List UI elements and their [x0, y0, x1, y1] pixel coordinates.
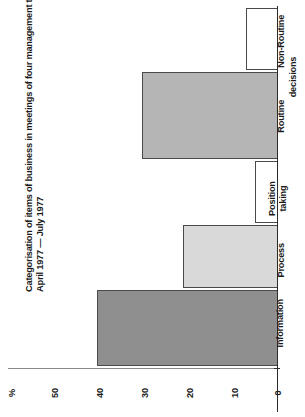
value-axis-tick-10: 10 — [230, 382, 240, 404]
plot-area — [0, 0, 305, 368]
category-group-sublabel-decisions: decisions — [288, 57, 298, 98]
value-axis-tick-20: 20 — [185, 382, 195, 404]
bar-process — [183, 225, 278, 288]
value-axis-unit-label: % — [7, 382, 17, 404]
category-label-routine: Routine — [276, 85, 287, 147]
value-axis-tick-30: 30 — [140, 382, 150, 404]
bar-routine-decisions — [142, 72, 278, 159]
category-label-position-taking: Position taking — [267, 169, 288, 229]
value-axis-tick-50: 50 — [50, 382, 60, 404]
bar-non-routine-decisions — [246, 8, 278, 70]
category-axis-tick-origin — [274, 368, 280, 369]
value-axis-tick-40: 40 — [95, 382, 105, 404]
category-label-process: Process — [276, 227, 287, 293]
category-label-non-routine: Non-Routine — [276, 0, 287, 82]
chart-figure: Categorisation of items of business in m… — [0, 0, 305, 417]
value-axis-line — [8, 368, 278, 369]
bar-information — [97, 290, 278, 366]
value-axis-tick-0: 0 — [273, 382, 283, 404]
